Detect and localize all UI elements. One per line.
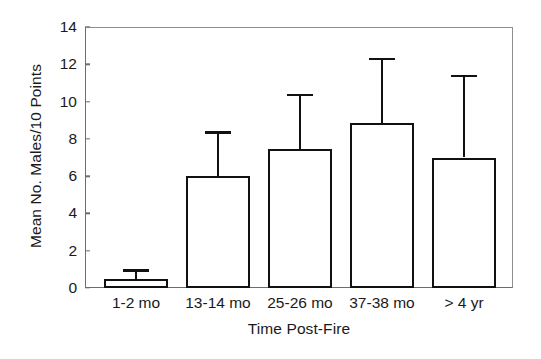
x-axis-tick-label: 13-14 mo [173, 294, 263, 312]
x-axis-tick-labels: 1-2 mo13-14 mo25-26 mo37-38 mo> 4 yr [0, 0, 541, 359]
x-axis-tick-label: 1-2 mo [91, 294, 181, 312]
x-axis-tick-label: 25-26 mo [255, 294, 345, 312]
x-axis-tick-label: 37-38 mo [337, 294, 427, 312]
x-axis-title: Time Post-Fire [85, 320, 513, 338]
x-axis-tick-label: > 4 yr [419, 294, 509, 312]
figure-bar-chart: Mean No. Males/10 Points 02468101214 1-2… [0, 0, 541, 359]
